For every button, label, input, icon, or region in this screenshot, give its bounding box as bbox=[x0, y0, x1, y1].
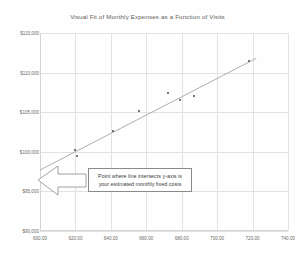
annotation-line-2: your estimated monthly fixed costs bbox=[92, 180, 188, 188]
chart-container: Visual Fit of Monthly Expenses as a Func… bbox=[0, 0, 295, 261]
fixed-costs-annotation: Point where line intersects y-axis is yo… bbox=[88, 168, 192, 192]
annotation-line-1: Point where line intersects y-axis is bbox=[92, 172, 188, 180]
callout-arrow-icon bbox=[0, 0, 295, 261]
